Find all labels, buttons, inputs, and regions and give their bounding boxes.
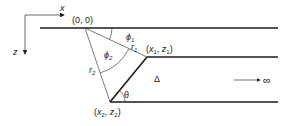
- theta-label: θ: [124, 90, 129, 100]
- z-axis-label: z: [12, 47, 18, 57]
- infinity-label: ∞: [263, 74, 271, 86]
- x-axis-label: x: [59, 3, 65, 13]
- radial-lines: [85, 28, 147, 102]
- structure-lines: [40, 28, 278, 102]
- phi2-label: ϕ2: [104, 50, 113, 61]
- coordinate-axes: x z: [12, 3, 65, 57]
- delta-label: Δ: [154, 74, 160, 84]
- r1-line: [85, 28, 147, 57]
- wedge-diagram: x z (0, 0) ϕ1 r1 ϕ2 r2 (x1, z1) (x2, z2)…: [0, 0, 292, 126]
- r2-label: r2: [89, 65, 96, 76]
- point2-label: (x2, z2): [94, 107, 121, 118]
- r1-label: r1: [131, 42, 137, 53]
- point1-label: (x1, z1): [146, 44, 173, 55]
- origin-label: (0, 0): [72, 15, 93, 25]
- phi1-arc: [110, 28, 113, 40]
